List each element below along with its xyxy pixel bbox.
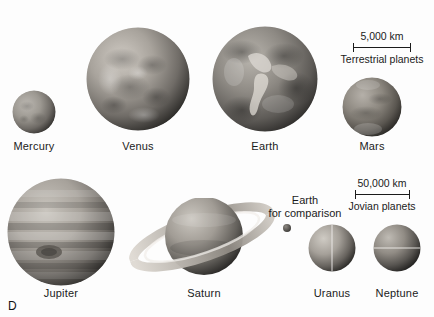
mars-sphere — [342, 77, 402, 137]
planet-label-jupiter: Jupiter — [27, 287, 95, 299]
scale-bar-terrestrial-group: Terrestrial planets — [330, 53, 434, 65]
planet-venus — [86, 27, 190, 131]
uranus-sphere — [308, 224, 356, 272]
mercury-sphere — [12, 90, 56, 134]
planet-size-comparison-figure: Mercury — [0, 0, 434, 317]
scale-bar-jovian-group: Jovian planets — [330, 200, 434, 212]
scale-bar-jovian: 50,000 km Jovian planets — [330, 177, 434, 212]
venus-sphere — [86, 27, 190, 131]
planet-label-neptune: Neptune — [363, 287, 431, 299]
planet-mercury — [12, 90, 56, 134]
neptune-sphere — [373, 224, 421, 272]
scale-bar-tick-left — [355, 190, 356, 199]
planet-label-earth: Earth — [231, 140, 299, 152]
scale-bar-jovian-distance: 50,000 km — [330, 177, 434, 189]
planet-mars — [342, 77, 402, 137]
earth-sphere — [212, 26, 318, 132]
panel-letter: D — [8, 299, 17, 313]
scale-bar-terrestrial-distance: 5,000 km — [330, 30, 434, 42]
earth-comparison-dot — [283, 224, 291, 232]
planet-label-saturn: Saturn — [170, 287, 238, 299]
scale-bar-tick-right — [410, 43, 411, 52]
planet-label-venus: Venus — [104, 140, 172, 152]
planet-earth — [212, 26, 318, 132]
planet-label-uranus: Uranus — [298, 287, 366, 299]
planet-neptune — [373, 224, 421, 272]
planet-uranus — [308, 224, 356, 272]
scale-bar-terrestrial-rule — [353, 43, 411, 52]
scale-bar-terrestrial: 5,000 km Terrestrial planets — [330, 30, 434, 65]
planet-label-mercury: Mercury — [0, 140, 68, 152]
scale-bar-line — [353, 47, 411, 48]
scale-bar-jovian-rule — [355, 190, 410, 199]
jupiter-sphere — [7, 178, 115, 286]
planet-label-mars: Mars — [338, 140, 406, 152]
scale-bar-line — [355, 194, 410, 195]
scale-bar-tick-left — [353, 43, 354, 52]
planet-jupiter — [7, 178, 115, 286]
scale-bar-tick-right — [409, 190, 410, 199]
